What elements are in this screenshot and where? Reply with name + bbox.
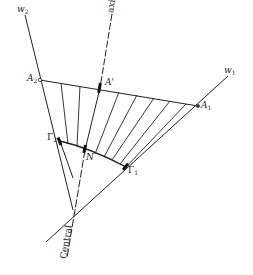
diagram-canvas: w2 w1 axis A2 A' A1 Γ2 N Γ1 Central <box>0 0 253 275</box>
label-a1: A1 <box>201 101 211 111</box>
central-axis-line-mid <box>85 88 100 150</box>
diagram-figure <box>0 0 253 275</box>
label-gamma2: Γ2 <box>47 133 57 143</box>
label-a2: A2 <box>27 74 37 84</box>
label-w2: w2 <box>17 5 29 15</box>
gamma2-extension <box>60 141 73 178</box>
point-a2 <box>38 78 41 81</box>
label-w1: w1 <box>224 66 236 76</box>
marker-a-prime <box>97 83 102 93</box>
rulings <box>61 83 186 167</box>
label-n: N <box>86 153 94 162</box>
label-gamma1: Γ1 <box>128 166 138 176</box>
line-w2 <box>25 15 73 210</box>
point-a1 <box>196 104 199 107</box>
label-a-prime: A' <box>105 78 114 87</box>
